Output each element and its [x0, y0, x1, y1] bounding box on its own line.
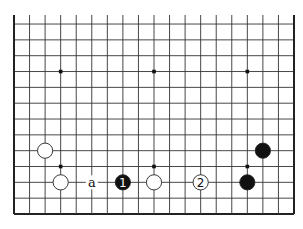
board-markers: a: [86, 175, 98, 190]
black-stone: [240, 175, 255, 190]
white-stone: [146, 175, 161, 190]
white-stone-2: 2: [193, 175, 208, 190]
star-point: [59, 70, 63, 74]
black-stone-1: 1: [115, 175, 130, 190]
star-point: [152, 70, 156, 74]
star-point: [152, 165, 156, 169]
black-stone: [255, 143, 270, 158]
go-board: a 12: [0, 0, 303, 229]
star-point: [59, 165, 63, 169]
star-point: [246, 165, 250, 169]
white-stone: [53, 175, 68, 190]
star-point: [246, 70, 250, 74]
stone-number: 2: [197, 176, 205, 190]
white-stone: [38, 143, 53, 158]
stone-number: 1: [119, 176, 127, 190]
marker-label-a: a: [88, 175, 96, 190]
